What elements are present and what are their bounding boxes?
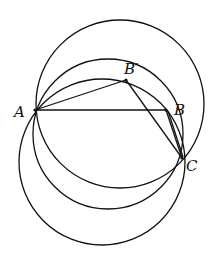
lower-circle <box>19 79 185 245</box>
point-bprime <box>124 78 127 81</box>
label-bprime: B′ <box>123 60 139 78</box>
segment-a-bprime <box>35 80 126 110</box>
point-c <box>180 156 183 159</box>
point-b <box>164 108 167 111</box>
label-b: B <box>173 101 185 119</box>
geometry-diagram: A B′ B C <box>0 0 211 263</box>
label-c: C <box>186 157 198 175</box>
label-a: A <box>12 103 25 121</box>
point-a <box>33 108 36 111</box>
